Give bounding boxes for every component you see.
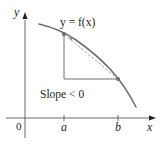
point-near-a	[70, 37, 73, 40]
point-b-on-curve	[116, 77, 120, 81]
axes	[6, 12, 156, 138]
slope-label: Slope < 0	[40, 88, 84, 101]
secant-slope-diagram: y x 0 a b y = f(x) Slope < 0	[0, 0, 164, 145]
tick-label-b: b	[115, 120, 121, 134]
secant-line	[64, 34, 118, 79]
origin-label: 0	[16, 120, 22, 132]
tick-label-a: a	[61, 120, 67, 134]
x-axis-label: x	[146, 120, 153, 134]
y-axis-arrow-icon	[23, 12, 28, 19]
y-axis-label: y	[13, 5, 20, 19]
point-a-on-curve	[62, 32, 66, 36]
function-label: y = f(x)	[60, 16, 95, 29]
